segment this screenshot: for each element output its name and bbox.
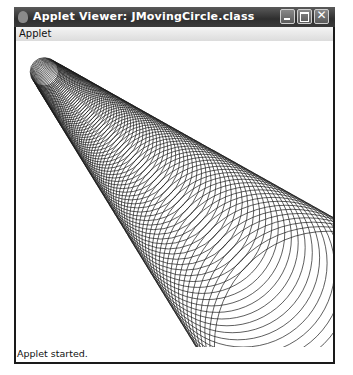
maximize-button[interactable] [297, 9, 312, 24]
applet-canvas[interactable] [16, 42, 333, 347]
maximize-icon [300, 12, 309, 22]
java-cup-icon[interactable] [18, 11, 28, 23]
moving-circles-drawing [16, 42, 333, 347]
menu-bar: Applet [16, 27, 333, 41]
close-button[interactable]: ✕ [314, 9, 329, 24]
menu-applet[interactable]: Applet [19, 28, 51, 39]
status-bar: Applet started. [16, 347, 333, 362]
status-text: Applet started. [17, 348, 88, 359]
minimize-button[interactable] [280, 9, 295, 24]
close-icon: ✕ [315, 8, 328, 22]
minimize-icon [284, 18, 290, 20]
window-title: Applet Viewer: JMovingCircle.class [33, 10, 254, 23]
title-bar[interactable]: Applet Viewer: JMovingCircle.class ✕ [14, 7, 335, 27]
